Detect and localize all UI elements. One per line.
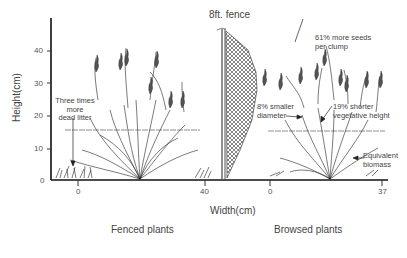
x-tick-fenced-40: 40	[200, 187, 209, 196]
fence-illustration	[217, 28, 257, 179]
annotation-seeds: 61% more seeds per clump	[315, 34, 371, 51]
y-tick-10: 10	[34, 144, 43, 153]
y-tick-20: 20	[34, 111, 43, 120]
annotation-biomass: Equivalent biomass	[363, 152, 398, 169]
caption-browsed-plants: Browsed plants	[274, 224, 342, 235]
x-tick-browsed-0: 0	[268, 187, 272, 196]
annotation-height: 19% shorter vegetative height	[333, 103, 390, 120]
y-tick-30: 30	[34, 79, 43, 88]
x-tick-fenced-0: 0	[76, 187, 80, 196]
annotation-diameter: 8% smaller diameter	[257, 103, 294, 120]
fence-label: 8ft. fence	[209, 9, 250, 20]
x-axis	[51, 180, 388, 186]
annotation-dead-litter: Three times more dead litter	[55, 97, 95, 123]
y-tick-40: 40	[34, 46, 43, 55]
y-axis-label: Height(cm)	[11, 73, 22, 122]
caption-fenced-plants: Fenced plants	[111, 224, 174, 235]
x-axis-label: Width(cm)	[210, 205, 256, 216]
y-tick-0: 0	[40, 176, 44, 185]
x-tick-browsed-37: 37	[378, 187, 387, 196]
y-axis	[47, 18, 51, 180]
